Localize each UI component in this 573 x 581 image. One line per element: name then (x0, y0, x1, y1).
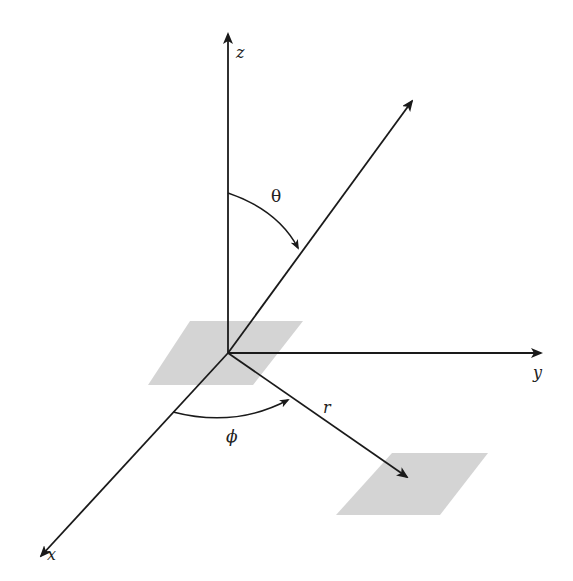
radius-label: r (323, 398, 332, 417)
x-axis-label: x (47, 545, 56, 564)
z-axis-label: z (235, 43, 245, 62)
radius-projection (228, 353, 407, 477)
phi-label: ϕ (226, 426, 238, 446)
radius-vector (228, 101, 412, 353)
theta-label: θ (271, 186, 281, 206)
x-axis (41, 353, 228, 556)
phi-arc (173, 400, 288, 418)
spherical-coordinates-diagram: z y x θ ϕ r (0, 0, 573, 581)
theta-arc (228, 193, 298, 248)
y-axis-label: y (532, 363, 543, 382)
projection-plane (336, 453, 488, 515)
